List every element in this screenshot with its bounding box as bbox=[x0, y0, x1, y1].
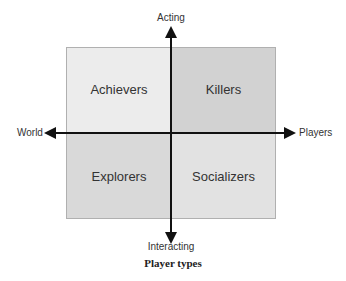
axes-arrows bbox=[0, 0, 346, 281]
axis-label-acting: Acting bbox=[150, 12, 192, 23]
axis-label-interacting: Interacting bbox=[140, 241, 202, 252]
axis-label-players: Players bbox=[299, 127, 332, 138]
figure-caption: Player types bbox=[0, 257, 346, 269]
axis-label-world: World bbox=[17, 127, 43, 138]
